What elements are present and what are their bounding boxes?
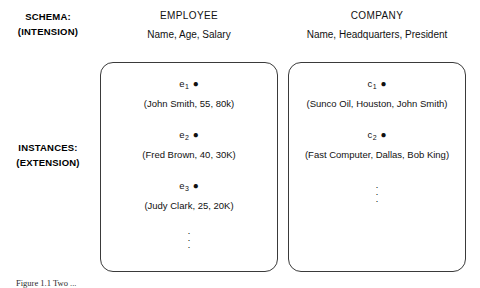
column-header-company: COMPANY Name, Headquarters, President	[288, 8, 466, 43]
column-header-employee: EMPLOYEE Name, Age, Salary	[100, 8, 278, 43]
entity-tuple: (Judy Clark, 25, 20K)	[101, 199, 277, 213]
entity-dot-icon: ●	[189, 180, 199, 191]
instance-box-company: c1● (Sunco Oil, Houston, John Smith) c2●…	[288, 62, 466, 272]
entity-tuple: (John Smith, 55, 80k)	[101, 97, 277, 111]
entity-tuple: (Fred Brown, 40, 30K)	[101, 148, 277, 162]
ellipsis-dot: ·	[101, 244, 277, 251]
figure-canvas: SCHEMA: (INTENSION) INSTANCES: (EXTENSIO…	[0, 0, 480, 288]
row-label-schema: SCHEMA: (INTENSION)	[0, 9, 96, 39]
figure-caption: Figure 1.1 Two ...	[16, 278, 466, 288]
entity-subscript: 1	[372, 83, 376, 90]
entity-identifier: e3●	[101, 179, 277, 195]
row-label-instances: INSTANCES: (EXTENSION)	[0, 140, 96, 170]
row-label-instances-line2: (EXTENSION)	[0, 155, 96, 170]
entity-item: c2● (Fast Computer, Dallas, Bob King)	[289, 128, 465, 162]
entity-tuple: (Fast Computer, Dallas, Bob King)	[289, 148, 465, 162]
row-label-schema-line2: (INTENSION)	[0, 24, 96, 39]
vertical-ellipsis-icon: · · ·	[289, 184, 465, 205]
instance-list-company: c1● (Sunco Oil, Houston, John Smith) c2●…	[289, 63, 465, 271]
entity-item: c1● (Sunco Oil, Houston, John Smith)	[289, 77, 465, 111]
column-attributes-employee: Name, Age, Salary	[100, 27, 278, 43]
entity-identifier: e2●	[101, 128, 277, 144]
ellipsis-dot: ·	[289, 198, 465, 205]
entity-item: e3● (Judy Clark, 25, 20K)	[101, 179, 277, 213]
entity-tuple: (Sunco Oil, Houston, John Smith)	[289, 97, 465, 111]
vertical-ellipsis-icon: · · ·	[101, 230, 277, 251]
entity-item: e1● (John Smith, 55, 80k)	[101, 77, 277, 111]
column-attributes-company: Name, Headquarters, President	[288, 27, 466, 43]
entity-identifier: c1●	[289, 77, 465, 93]
entity-subscript: 2	[372, 134, 376, 141]
column-title-employee: EMPLOYEE	[100, 8, 278, 24]
entity-dot-icon: ●	[377, 129, 387, 140]
entity-identifier: e1●	[101, 77, 277, 93]
instance-list-employee: e1● (John Smith, 55, 80k) e2● (Fred Brow…	[101, 63, 277, 271]
row-label-schema-line1: SCHEMA:	[0, 9, 96, 24]
column-title-company: COMPANY	[288, 8, 466, 24]
instance-box-employee: e1● (John Smith, 55, 80k) e2● (Fred Brow…	[100, 62, 278, 272]
entity-dot-icon: ●	[189, 78, 199, 89]
entity-dot-icon: ●	[189, 129, 199, 140]
entity-item: e2● (Fred Brown, 40, 30K)	[101, 128, 277, 162]
entity-dot-icon: ●	[377, 78, 387, 89]
entity-identifier: c2●	[289, 128, 465, 144]
row-label-instances-line1: INSTANCES:	[0, 140, 96, 155]
